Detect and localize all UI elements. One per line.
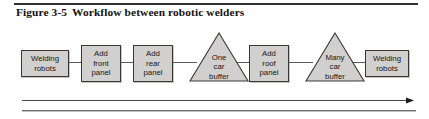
node-label-line: robots — [376, 64, 398, 73]
node-label-line: robots — [34, 64, 56, 73]
node-label-line: Welding — [373, 54, 401, 63]
node-label-line: roof — [262, 59, 275, 68]
node-label-line: buffer — [325, 72, 345, 81]
node-label-line: front — [93, 59, 109, 68]
process-node-welding-robots-start[interactable]: Welding robots — [21, 50, 69, 77]
buffer-node-one-car-buffer[interactable]: One car buffer — [189, 32, 249, 82]
top-rule-divider — [14, 3, 418, 5]
buffer-node-many-car-buffer[interactable]: Many car buffer — [305, 32, 365, 82]
process-node-add-roof-panel[interactable]: Add roof panel — [249, 45, 289, 82]
node-label-line: Welding — [31, 54, 59, 63]
flow-direction-arrow — [22, 97, 415, 104]
node-label-line: Add — [94, 49, 108, 58]
node-label-line: panel — [143, 68, 162, 77]
figure-caption: Figure 3-5Workflow between robotic welde… — [16, 6, 244, 18]
node-label-line: One — [212, 53, 227, 62]
node-label-line: panel — [259, 68, 278, 77]
process-flow-diagram: Welding robots Add front panel Add rear … — [0, 26, 429, 90]
node-label-line: Many — [325, 53, 344, 62]
node-label-line: Add — [262, 49, 276, 58]
node-label-line: buffer — [209, 72, 229, 81]
node-label-line: car — [330, 62, 341, 71]
bottom-rule-divider — [22, 110, 416, 111]
process-node-add-rear-panel[interactable]: Add rear panel — [133, 45, 173, 82]
figure-container: Figure 3-5Workflow between robotic welde… — [0, 0, 429, 119]
figure-title-text: Workflow between robotic welders — [72, 6, 244, 18]
process-node-welding-robots-end[interactable]: Welding robots — [365, 50, 409, 77]
figure-number-label: Figure 3-5 — [16, 6, 67, 18]
connector-line-1 — [69, 62, 81, 63]
node-label-line: car — [214, 62, 225, 71]
node-label-line: rear — [146, 59, 160, 68]
node-label-line: panel — [91, 68, 110, 77]
node-label-line: Add — [146, 49, 160, 58]
process-node-add-front-panel[interactable]: Add front panel — [81, 45, 121, 82]
connector-line-2 — [121, 62, 133, 63]
